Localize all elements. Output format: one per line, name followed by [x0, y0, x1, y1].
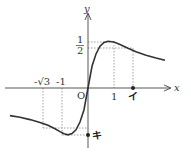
- function-graph: y x O -√3 -1 1 1 2 イ キ: [0, 0, 191, 153]
- tick-label-1: 1: [111, 91, 117, 102]
- tick-label-neg-sqrt3: -√3: [34, 76, 50, 87]
- axes: [5, 13, 171, 148]
- marker-label-i: イ: [128, 91, 138, 102]
- origin-label: O: [77, 90, 85, 101]
- marker-point-i: [131, 86, 135, 90]
- tick-label-half: 1 2: [76, 34, 84, 56]
- y-axis-label: y: [83, 3, 90, 14]
- svg-text:1: 1: [77, 34, 83, 45]
- marker-label-ki: キ: [92, 130, 102, 141]
- svg-text:2: 2: [77, 45, 83, 56]
- x-axis-label: x: [174, 82, 180, 93]
- marker-point-ki: [86, 133, 90, 137]
- tick-label-neg-1: -1: [56, 76, 66, 87]
